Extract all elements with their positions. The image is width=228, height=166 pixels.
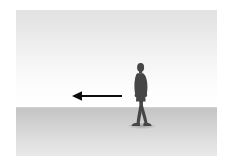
walking-person-silhouette — [129, 62, 153, 130]
horizon-line — [16, 107, 217, 108]
illustration-frame — [16, 10, 217, 156]
illustration-canvas — [0, 0, 228, 166]
motion-arrow-icon — [72, 90, 122, 102]
ground-gradient — [16, 108, 217, 156]
